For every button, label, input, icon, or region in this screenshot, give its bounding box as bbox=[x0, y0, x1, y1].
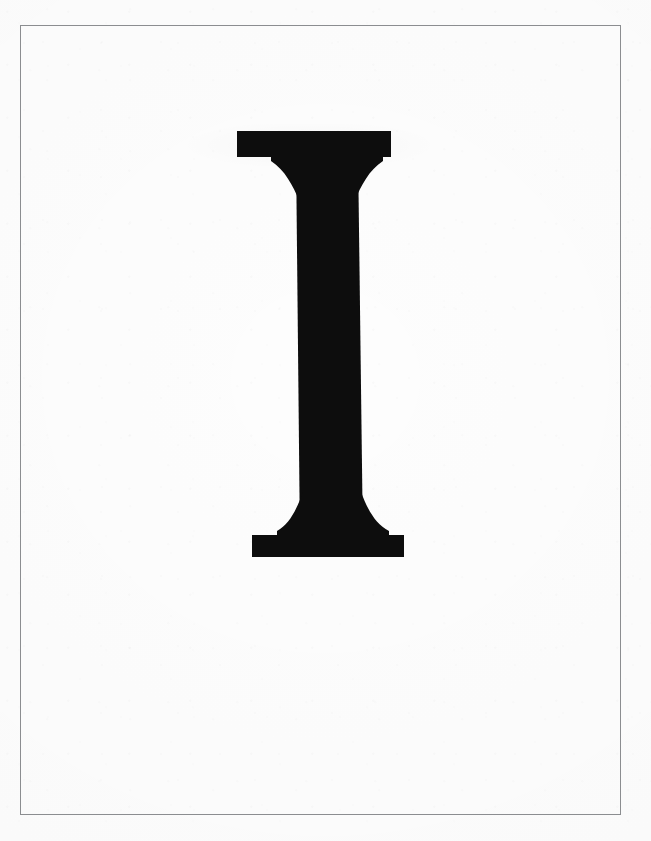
plate-border bbox=[20, 25, 621, 815]
scanned-page bbox=[0, 0, 651, 841]
